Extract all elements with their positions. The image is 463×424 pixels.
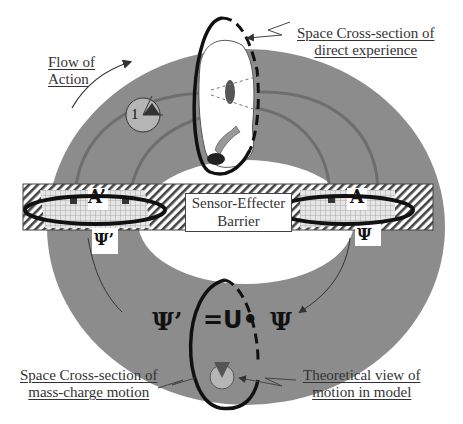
symbol-a: A [350, 186, 364, 207]
mass-line-1: Space Cross-section of [20, 367, 157, 384]
theoretical-line-1: Theoretical view of [303, 367, 420, 384]
barrier-line-1: Sensor-Effecter [186, 194, 291, 212]
barrier-line-2: Barrier [186, 212, 291, 230]
label-barrier: Sensor-Effecter Barrier [185, 193, 292, 232]
symbol-psi-big: Ψ [270, 307, 292, 336]
label-mass-charge: Space Cross-section of mass-charge motio… [20, 367, 157, 401]
symbol-a-prime: A’ [88, 186, 106, 207]
symbol-psi-prime-big: Ψ’ [152, 307, 182, 336]
pointer-direct [248, 22, 290, 38]
figure-icon [225, 80, 235, 104]
symbol-psi-small: Ψ [357, 225, 372, 244]
direct-line-1: Space Cross-section of [297, 25, 434, 42]
label-theoretical: Theoretical view of motion in model [303, 367, 420, 401]
flow-line-2: Action [48, 71, 95, 88]
symbol-psi-prime-small: Ψ’ [94, 230, 114, 249]
observer-number: 1 [131, 106, 139, 123]
label-flow-of-action: Flow of Action [48, 54, 95, 88]
flow-line-1: Flow of [48, 54, 95, 71]
label-direct-experience: Space Cross-section of direct experience [297, 25, 434, 59]
symbol-equation: =U• [203, 306, 258, 334]
theoretical-line-2: motion in model [303, 384, 420, 401]
mass-line-2: mass-charge motion [20, 384, 157, 401]
direct-line-2: direct experience [297, 42, 434, 59]
